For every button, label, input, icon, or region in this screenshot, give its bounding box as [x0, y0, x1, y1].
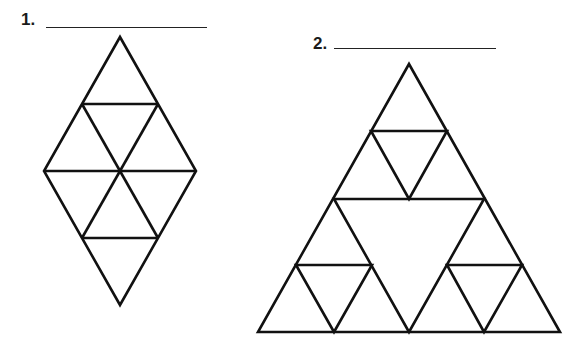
figure-2-sierpinski	[258, 64, 560, 332]
figures	[0, 0, 587, 352]
figure-1-rhombus	[44, 37, 196, 305]
